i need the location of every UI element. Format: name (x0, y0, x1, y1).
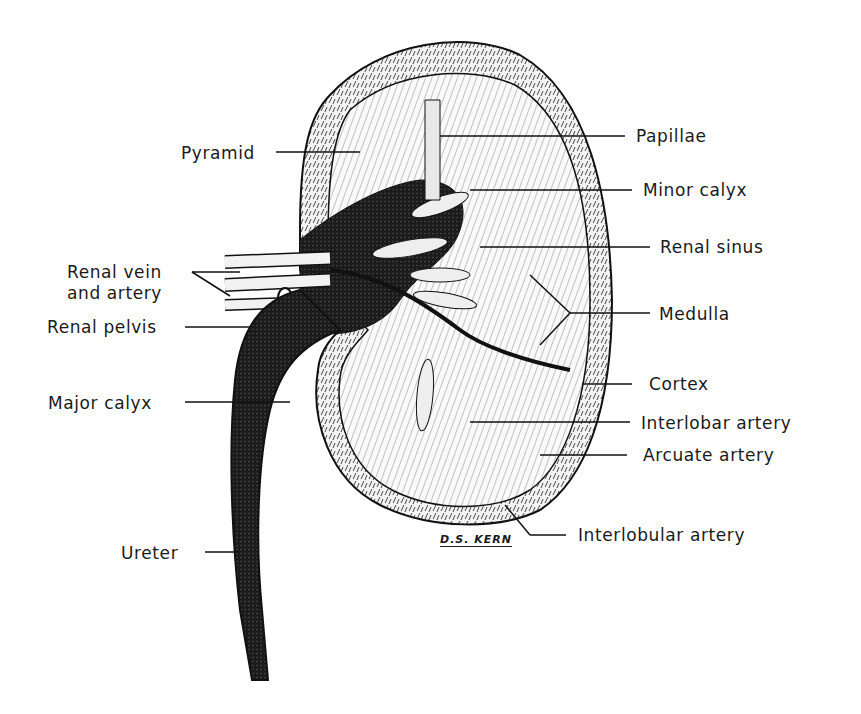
label-renal-sinus: Renal sinus (660, 237, 763, 257)
papilla-top (425, 100, 440, 200)
label-pyramid: Pyramid (181, 143, 255, 163)
label-minor-calyx: Minor calyx (643, 180, 747, 200)
label-renal-vein: Renal vein (67, 262, 162, 282)
kidney-illustration (0, 0, 861, 714)
label-cortex: Cortex (649, 374, 709, 394)
label-major-calyx: Major calyx (48, 393, 152, 413)
label-arcuate-artery: Arcuate artery (643, 445, 774, 465)
label-interlobular-artery: Interlobular artery (578, 525, 745, 545)
label-ureter: Ureter (121, 543, 178, 563)
artist-signature: D.S. KERN (440, 534, 512, 547)
label-and-artery: and artery (67, 283, 162, 303)
label-papillae: Papillae (636, 126, 707, 146)
label-renal-pelvis: Renal pelvis (47, 317, 157, 337)
label-interlobar-artery: Interlobar artery (641, 413, 791, 433)
label-medulla: Medulla (659, 304, 730, 324)
